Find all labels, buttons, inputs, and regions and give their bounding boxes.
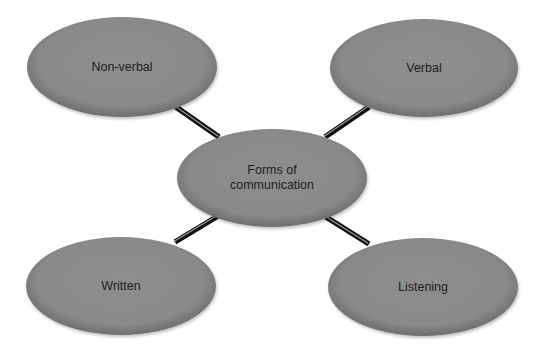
mind-map-diagram <box>0 0 546 350</box>
connector-non-verbal <box>175 106 219 137</box>
node-verbal-ellipse <box>330 19 518 117</box>
nodes <box>26 17 518 336</box>
connector-verbal <box>324 106 369 137</box>
node-non-verbal-ellipse <box>27 17 217 117</box>
node-written-ellipse <box>26 237 216 335</box>
node-listening-ellipse <box>328 238 518 336</box>
center-node-ellipse <box>177 129 367 227</box>
connector-listening <box>325 216 369 244</box>
connector-written <box>174 215 218 242</box>
